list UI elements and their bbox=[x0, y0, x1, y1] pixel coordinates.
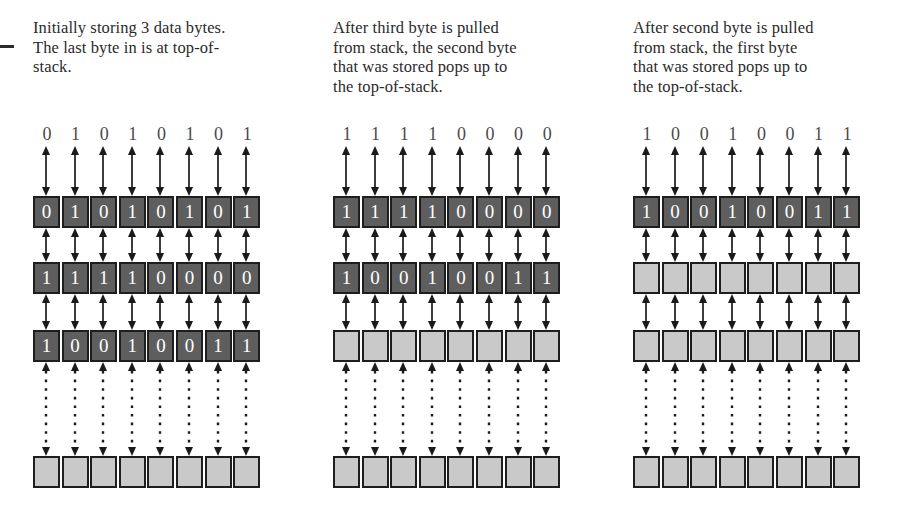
memory-cell-filled: 1 bbox=[119, 196, 146, 228]
memory-cell-empty bbox=[362, 330, 389, 362]
double-arrow-icon bbox=[447, 146, 475, 196]
double-arrow-icon bbox=[690, 228, 718, 262]
memory-cell-filled: 0 bbox=[90, 330, 117, 362]
double-arrow-icon bbox=[447, 228, 475, 262]
bit-label: 0 bbox=[662, 122, 690, 146]
memory-cell-filled: 1 bbox=[33, 330, 60, 362]
caption-line: Initially storing 3 data bytes. bbox=[33, 18, 295, 38]
memory-cell-filled: 0 bbox=[390, 262, 417, 294]
dotted-double-arrow-icon bbox=[662, 362, 690, 456]
memory-cell-filled: 0 bbox=[533, 196, 560, 228]
memory-cell-filled: 1 bbox=[119, 330, 146, 362]
caption-line: After second byte is pulled bbox=[633, 18, 895, 38]
memory-cell-filled: 0 bbox=[90, 196, 117, 228]
memory-cell-filled: 0 bbox=[447, 262, 474, 294]
panel-caption: After second byte is pulledfrom stack, t… bbox=[633, 18, 895, 96]
memory-cell-filled: 1 bbox=[205, 330, 232, 362]
stack-byte-row bbox=[333, 330, 562, 363]
double-arrow-icon bbox=[747, 228, 775, 262]
stack-byte-row bbox=[633, 330, 862, 363]
memory-cell-filled: 0 bbox=[205, 196, 232, 228]
double-arrow-icon bbox=[505, 294, 533, 330]
double-arrow-icon bbox=[90, 294, 118, 330]
caption-line: that was stored pops up to bbox=[633, 57, 895, 77]
dotted-double-arrow-icon bbox=[119, 362, 147, 456]
memory-cell-empty bbox=[747, 330, 774, 362]
caption-line: The last byte in is at top-of- bbox=[33, 38, 295, 58]
dashed-arrow-row bbox=[33, 362, 262, 456]
bit-label: 1 bbox=[719, 122, 747, 146]
memory-cell-empty bbox=[447, 330, 474, 362]
bit-label: 1 bbox=[833, 122, 861, 146]
double-arrow-icon bbox=[533, 228, 561, 262]
memory-cell-empty bbox=[476, 330, 503, 362]
double-arrow-icon bbox=[33, 294, 61, 330]
memory-cell-filled: 0 bbox=[776, 196, 803, 228]
memory-cell-filled: 1 bbox=[833, 196, 860, 228]
dotted-double-arrow-icon bbox=[476, 362, 504, 456]
double-arrow-icon bbox=[390, 228, 418, 262]
double-arrow-icon bbox=[690, 294, 718, 330]
double-arrow-icon bbox=[690, 146, 718, 196]
bit-label: 1 bbox=[805, 122, 833, 146]
memory-cell-filled: 0 bbox=[62, 330, 89, 362]
memory-cell-empty bbox=[805, 456, 832, 488]
caption-line: that was stored pops up to bbox=[333, 57, 595, 77]
memory-cell-empty bbox=[390, 456, 417, 488]
memory-cell-empty bbox=[690, 330, 717, 362]
double-arrow-icon bbox=[176, 146, 204, 196]
memory-cell-filled: 0 bbox=[233, 262, 260, 294]
memory-cell-filled: 0 bbox=[147, 196, 174, 228]
memory-cell-empty bbox=[633, 262, 660, 294]
bit-label: 1 bbox=[333, 122, 361, 146]
caption-line: After third byte is pulled bbox=[333, 18, 595, 38]
double-arrow-icon bbox=[147, 228, 175, 262]
bit-label: 0 bbox=[776, 122, 804, 146]
double-arrow-icon bbox=[805, 294, 833, 330]
double-arrow-icon bbox=[147, 294, 175, 330]
memory-cell-empty bbox=[747, 262, 774, 294]
dotted-double-arrow-icon bbox=[805, 362, 833, 456]
arrow-row bbox=[333, 146, 562, 196]
arrow-row bbox=[633, 294, 862, 330]
memory-cell-empty bbox=[776, 262, 803, 294]
dotted-double-arrow-icon bbox=[633, 362, 661, 456]
memory-cell-empty bbox=[633, 330, 660, 362]
memory-cell-empty bbox=[662, 262, 689, 294]
memory-cell-filled: 0 bbox=[447, 196, 474, 228]
memory-cell-filled: 1 bbox=[90, 262, 117, 294]
memory-cell-empty bbox=[833, 262, 860, 294]
double-arrow-icon bbox=[176, 228, 204, 262]
memory-cell-filled: 1 bbox=[390, 196, 417, 228]
arrow-row bbox=[33, 146, 262, 196]
memory-cell-filled: 0 bbox=[176, 330, 203, 362]
memory-cell-filled: 1 bbox=[419, 196, 446, 228]
double-arrow-icon bbox=[776, 294, 804, 330]
double-arrow-icon bbox=[62, 294, 90, 330]
memory-cell-empty bbox=[833, 330, 860, 362]
bit-label: 0 bbox=[505, 122, 533, 146]
bit-label: 1 bbox=[119, 122, 147, 146]
arrow-row bbox=[333, 294, 562, 330]
memory-cell-empty bbox=[662, 330, 689, 362]
memory-cell-filled: 0 bbox=[690, 196, 717, 228]
caption-line: stack. bbox=[33, 57, 295, 77]
double-arrow-icon bbox=[633, 146, 661, 196]
dotted-double-arrow-icon bbox=[390, 362, 418, 456]
memory-cell-filled: 0 bbox=[662, 196, 689, 228]
bit-label: 0 bbox=[447, 122, 475, 146]
memory-cell-filled: 1 bbox=[533, 262, 560, 294]
memory-cell-empty bbox=[333, 330, 360, 362]
memory-cell-filled: 1 bbox=[119, 262, 146, 294]
memory-cell-empty bbox=[533, 330, 560, 362]
arrow-row bbox=[333, 228, 562, 262]
bit-label-row: 11110000 bbox=[333, 122, 563, 146]
dotted-double-arrow-icon bbox=[147, 362, 175, 456]
memory-cell-empty bbox=[119, 456, 146, 488]
memory-cell-filled: 1 bbox=[419, 262, 446, 294]
double-arrow-icon bbox=[205, 228, 233, 262]
dotted-double-arrow-icon bbox=[505, 362, 533, 456]
double-arrow-icon bbox=[719, 294, 747, 330]
memory-cell-filled: 1 bbox=[62, 196, 89, 228]
memory-cell-empty bbox=[805, 330, 832, 362]
